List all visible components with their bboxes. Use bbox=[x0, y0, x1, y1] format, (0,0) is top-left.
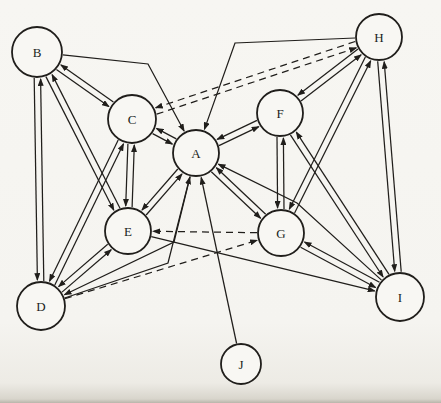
node-label-F: F bbox=[276, 106, 283, 121]
edge-F-H bbox=[301, 55, 361, 101]
edge-H-G bbox=[289, 57, 365, 209]
edge-C-D bbox=[50, 140, 119, 281]
node-H: H bbox=[356, 14, 402, 60]
sociogram-figure: BHCFAEGDIJ bbox=[0, 0, 441, 403]
node-J: J bbox=[221, 344, 261, 384]
node-label-J: J bbox=[238, 357, 243, 372]
node-G: G bbox=[258, 210, 304, 256]
node-label-A: A bbox=[191, 146, 201, 161]
node-label-H: H bbox=[374, 30, 383, 45]
edge-A-G bbox=[211, 172, 260, 218]
node-A: A bbox=[173, 130, 219, 176]
node-label-E: E bbox=[124, 224, 132, 239]
edge-E-B bbox=[52, 75, 120, 209]
edge-G-H bbox=[295, 61, 371, 213]
edge-B-E bbox=[46, 77, 114, 211]
edge-B-C bbox=[56, 70, 109, 107]
node-C: C bbox=[108, 95, 156, 143]
edge-E-C bbox=[132, 145, 134, 207]
graph-svg: BHCFAEGDIJ bbox=[0, 0, 441, 403]
node-I: I bbox=[376, 273, 424, 321]
edge-H-F bbox=[298, 49, 358, 95]
edge-G-F bbox=[283, 138, 284, 209]
node-label-D: D bbox=[36, 299, 45, 314]
node-label-B: B bbox=[33, 45, 42, 60]
edge-C-B bbox=[61, 65, 114, 102]
edge-A-E bbox=[142, 169, 178, 210]
node-B: B bbox=[12, 27, 62, 77]
edge-J-A bbox=[201, 178, 236, 344]
node-D: D bbox=[17, 282, 65, 330]
node-label-G: G bbox=[276, 226, 285, 241]
node-label-C: C bbox=[128, 112, 137, 127]
edge-C-E bbox=[126, 144, 128, 206]
edge-D-G-dashed bbox=[65, 240, 257, 298]
edge-G-E-dashed bbox=[153, 231, 257, 232]
node-label-I: I bbox=[398, 290, 402, 305]
node-E: E bbox=[105, 208, 151, 254]
node-F: F bbox=[257, 90, 303, 136]
edge-F-G bbox=[277, 137, 278, 208]
edge-E-A bbox=[146, 174, 182, 215]
edge-F-I bbox=[290, 135, 383, 277]
edge-B-D bbox=[34, 78, 37, 280]
edge-D-B bbox=[41, 79, 44, 281]
edge-E-D bbox=[59, 244, 108, 286]
